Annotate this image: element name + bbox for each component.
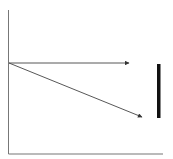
vertical-bar [157, 64, 161, 118]
diagonal-arrow [9, 63, 142, 117]
diagram-canvas [0, 0, 173, 159]
